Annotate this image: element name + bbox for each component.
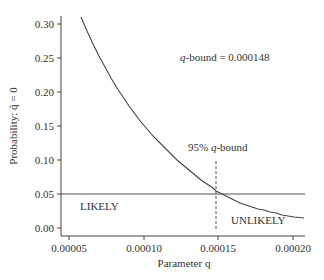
y-tick-label: 0.10 (35, 154, 55, 166)
unlikely-label: UNLIKELY (231, 214, 286, 226)
y-tick-labels: 0.00 0.05 0.10 0.15 0.20 0.25 0.30 (35, 18, 55, 234)
y-tick-label: 0.30 (35, 18, 55, 30)
x-tick-label: 0.00020 (275, 242, 311, 254)
y-tick-label: 0.00 (35, 222, 55, 234)
x-tick-labels: 0.00005 0.00010 0.00015 0.00020 (51, 242, 311, 254)
y-ticks (57, 24, 61, 228)
y-tick-label: 0.05 (35, 188, 55, 200)
likely-label: LIKELY (80, 200, 119, 212)
probability-curve (81, 17, 304, 218)
probability-chart: 0.00 0.05 0.10 0.15 0.20 0.25 0.30 0.000… (0, 0, 324, 280)
y-axis-title: Probability: q̂ = 0 (7, 87, 19, 165)
y-tick-label: 0.25 (35, 52, 55, 64)
x-tick-label: 0.00015 (200, 242, 236, 254)
x-tick-label: 0.00010 (126, 242, 162, 254)
x-axis-title: Parameter q (158, 257, 211, 269)
y-tick-label: 0.20 (35, 86, 55, 98)
q-bound-annotation: q-bound = 0.000148 (180, 51, 270, 63)
ci-bound-annotation: 95% q-bound (188, 141, 248, 153)
x-ticks (69, 236, 293, 240)
x-tick-label: 0.00005 (51, 242, 87, 254)
y-tick-label: 0.15 (35, 120, 55, 132)
